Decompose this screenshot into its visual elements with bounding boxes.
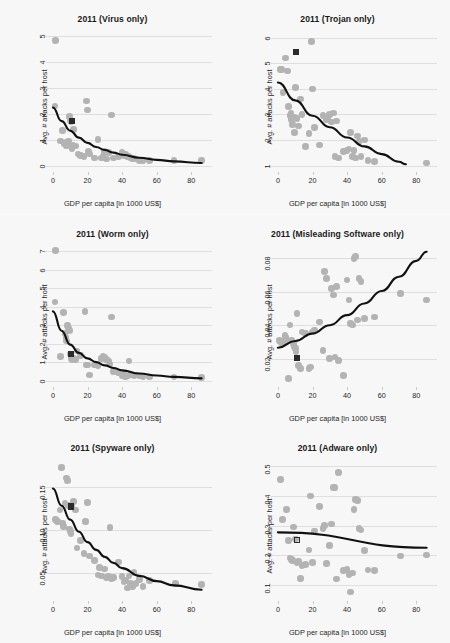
y-tick-text: 4 — [263, 87, 272, 91]
y-tick-label: 2 — [38, 108, 42, 117]
x-tick-mark — [88, 387, 89, 390]
highlighted-country-marker — [69, 118, 75, 124]
data-point — [91, 557, 98, 564]
y-tick-label: 1 — [38, 134, 42, 143]
x-tick-mark — [278, 172, 279, 175]
x-tick-label: 60 — [153, 176, 161, 185]
grid-line — [46, 344, 212, 345]
scatter-panel: 2011 (Adware only)Avg. # attacks per hos… — [225, 429, 450, 643]
data-point — [347, 129, 354, 136]
data-point — [291, 129, 298, 136]
x-tick-mark — [122, 601, 123, 604]
y-tick-label: 0.10 — [28, 524, 42, 533]
grid-line — [271, 140, 437, 141]
scatter-panel: 2011 (Worm only)Avg. # attacks per hostG… — [0, 215, 225, 429]
data-point — [330, 110, 337, 117]
x-tick-label: 20 — [309, 391, 317, 400]
y-tick-label: 5 — [38, 30, 42, 39]
y-tick-label: 0.1 — [257, 579, 267, 588]
y-tick-label: 0.2 — [257, 549, 267, 558]
x-tick-label: 60 — [378, 391, 386, 400]
y-tick-text: 2 — [38, 112, 47, 116]
grid-line — [46, 288, 212, 289]
data-point — [306, 130, 313, 137]
data-point — [340, 372, 347, 379]
data-point — [332, 484, 339, 491]
grid-line — [271, 466, 437, 467]
x-tick-label: 80 — [187, 391, 195, 400]
y-tick-text: 2 — [263, 139, 272, 143]
y-tick-text: 0 — [38, 164, 47, 168]
x-tick-label: 0 — [51, 605, 55, 614]
y-tick-text: 0.4 — [263, 494, 272, 504]
data-point — [146, 157, 153, 164]
data-point — [361, 547, 368, 554]
data-point — [309, 86, 316, 93]
y-tick-text: 3 — [263, 113, 272, 117]
y-tick-label: 4 — [38, 56, 42, 65]
plot-area: 0.050.100.15020406080 — [46, 459, 212, 601]
y-tick-text: 6 — [263, 36, 272, 40]
y-tick-label: 0.04 — [253, 319, 267, 328]
data-point — [352, 253, 359, 260]
data-point — [335, 357, 342, 364]
x-tick-mark — [88, 172, 89, 175]
data-point — [284, 68, 291, 75]
x-tick-label: 20 — [309, 605, 317, 614]
data-point — [64, 477, 71, 484]
plot-area: 123456020406080 — [271, 30, 437, 172]
panel-title: 2011 (Adware only) — [225, 443, 450, 453]
data-point — [344, 277, 351, 284]
scatter-panel: 2011 (Trojan only)Avg. # attacks per hos… — [225, 0, 450, 214]
data-point — [308, 38, 315, 45]
fit-curve — [46, 245, 212, 387]
data-point — [397, 553, 404, 560]
data-point — [297, 96, 304, 103]
data-point — [302, 143, 309, 150]
data-point — [295, 123, 302, 130]
data-point — [198, 157, 205, 164]
panel-title: 2011 (Virus only) — [0, 14, 225, 24]
data-point — [198, 374, 205, 381]
data-point — [292, 84, 299, 91]
grid-line — [46, 36, 212, 37]
data-point — [82, 518, 89, 525]
y-tick-label: 7 — [38, 245, 42, 254]
x-tick-mark — [157, 387, 158, 390]
grid-line — [271, 585, 437, 586]
x-tick-mark — [278, 601, 279, 604]
data-point — [126, 358, 133, 365]
x-tick-mark — [313, 387, 314, 390]
data-point — [115, 559, 122, 566]
x-tick-mark — [278, 387, 279, 390]
data-point — [110, 574, 117, 581]
data-point — [335, 469, 342, 476]
fit-curve — [271, 459, 437, 601]
grid-line — [46, 270, 212, 271]
panel-title: 2011 (Misleading Software only) — [225, 229, 450, 239]
data-point — [358, 278, 365, 285]
data-point — [361, 315, 368, 322]
scatter-panel: 2011 (Spyware only)Avg. # attacks per ho… — [0, 429, 225, 643]
data-point — [198, 581, 205, 588]
data-point — [279, 516, 286, 523]
x-tick-mark — [347, 601, 348, 604]
y-tick-label: 3 — [38, 82, 42, 91]
x-tick-label: 40 — [343, 391, 351, 400]
data-point — [58, 464, 65, 471]
data-point — [280, 89, 287, 96]
y-tick-label: 0.08 — [253, 252, 267, 261]
y-tick-label: 5 — [263, 57, 267, 66]
data-point — [311, 124, 318, 131]
data-point — [309, 559, 316, 566]
x-tick-label: 20 — [309, 176, 317, 185]
x-axis-label: GDP per capita [in 1000 US$] — [225, 414, 450, 423]
x-tick-label: 0 — [51, 391, 55, 400]
x-tick-label: 20 — [84, 605, 92, 614]
y-tick-text: 1 — [38, 361, 47, 365]
data-point — [101, 566, 108, 573]
y-tick-text: 0.02 — [263, 357, 272, 371]
data-point — [84, 107, 91, 114]
data-point — [316, 503, 323, 510]
data-point — [283, 506, 290, 513]
